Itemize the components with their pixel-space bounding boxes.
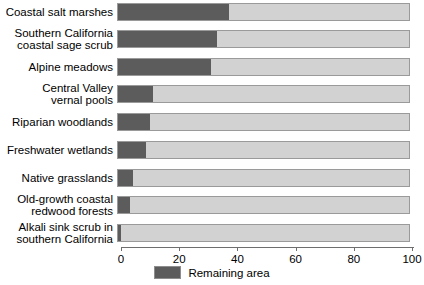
bar-segment-remaining <box>118 197 130 213</box>
x-axis-tick <box>179 247 180 251</box>
chart-legend: Remaining area <box>0 266 424 279</box>
bar-segment-remaining <box>118 142 146 158</box>
remaining-area-swatch <box>154 266 181 279</box>
bar-track <box>117 113 410 131</box>
x-axis-tick <box>296 247 297 251</box>
x-axis-tick <box>237 247 238 251</box>
bar-segment-remaining <box>118 225 121 241</box>
chart-row: Southern California coastal sage scrub <box>0 30 424 48</box>
chart-row: Riparian woodlands <box>0 113 424 131</box>
remaining-habitat-area-chart: Coastal salt marshesSouthern California … <box>0 0 424 285</box>
chart-row: Alpine meadows <box>0 58 424 76</box>
category-label: Southern California coastal sage scrub <box>0 27 117 52</box>
bar-track <box>117 30 410 48</box>
legend-label-remaining-area: Remaining area <box>188 267 269 279</box>
category-label: Riparian woodlands <box>0 116 117 129</box>
bar-track <box>117 3 410 21</box>
category-label: Central Valley vernal pools <box>0 82 117 107</box>
bar-track <box>117 224 410 242</box>
bar-track <box>117 58 410 76</box>
bar-track <box>117 141 410 159</box>
x-axis-tick-label: 80 <box>347 253 360 265</box>
bar-segment-remaining <box>118 170 133 186</box>
x-axis-tick-label: 40 <box>231 253 244 265</box>
bar-segment-remaining <box>118 86 153 102</box>
bar-track <box>117 169 410 187</box>
bar-track <box>117 196 410 214</box>
x-axis-tick-label: 0 <box>118 253 124 265</box>
bar-segment-remaining <box>118 59 211 75</box>
bar-segment-remaining <box>118 114 150 130</box>
x-axis-tick-label: 100 <box>402 253 421 265</box>
category-label: Freshwater wetlands <box>0 144 117 157</box>
chart-row: Old-growth coastal redwood forests <box>0 196 424 214</box>
bar-segment-remaining <box>118 31 217 47</box>
bar-segment-remaining <box>118 4 229 20</box>
chart-row: Central Valley vernal pools <box>0 85 424 103</box>
x-axis-tick <box>412 247 413 251</box>
category-label: Alkali sink scrub in southern California <box>0 221 117 246</box>
category-label: Old-growth coastal redwood forests <box>0 193 117 218</box>
chart-row: Alkali sink scrub in southern California <box>0 224 424 242</box>
chart-row: Native grasslands <box>0 169 424 187</box>
category-label: Alpine meadows <box>0 61 117 74</box>
x-axis-tick-label: 60 <box>289 253 302 265</box>
x-axis-tick <box>121 247 122 251</box>
category-label: Coastal salt marshes <box>0 6 117 19</box>
category-label: Native grasslands <box>0 172 117 185</box>
x-axis: 020406080100 <box>121 247 414 248</box>
chart-row: Coastal salt marshes <box>0 3 424 21</box>
chart-row: Freshwater wetlands <box>0 141 424 159</box>
x-axis-tick-label: 20 <box>173 253 186 265</box>
bar-track <box>117 85 410 103</box>
x-axis-tick <box>354 247 355 251</box>
